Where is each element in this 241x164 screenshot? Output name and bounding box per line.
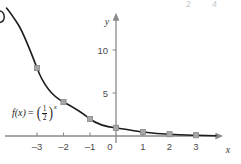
cropped-edge-mark	[0, 11, 4, 23]
exponent-x: x	[54, 104, 57, 111]
data-point-marker	[61, 99, 66, 104]
exponential-decay-figure: –3 –2 –1 0 1 2 3 5 10 x y f(x)=(12)x 2	[0, 0, 241, 164]
y-axis-label: y	[104, 16, 110, 27]
cropped-glyph-top: 4	[212, 0, 217, 9]
data-point-marker	[140, 129, 145, 134]
y-axis	[113, 20, 117, 143]
x-axis-label: x	[225, 144, 231, 155]
equals-sign: =	[28, 107, 34, 118]
x-tick-labels: –3 –2 –1 0 1 2 3	[32, 141, 199, 152]
fraction-one-half: 12	[42, 105, 48, 122]
data-point-marker	[87, 116, 92, 121]
data-point-marker	[167, 132, 172, 137]
x-tick-label-origin: 0	[107, 141, 112, 152]
y-tick-label: 5	[103, 88, 108, 99]
fraction-numerator: 1	[42, 105, 48, 113]
paren-open: (	[36, 107, 40, 120]
function-label: f(x)=(12)x	[12, 105, 57, 122]
x-tick-label: –3	[32, 141, 43, 152]
x-tick-label: 1	[140, 141, 145, 152]
x-tick-label: 2	[167, 141, 172, 152]
graph-canvas: –3 –2 –1 0 1 2 3 5 10 x y	[0, 0, 241, 164]
fraction-denominator: 2	[42, 113, 48, 122]
cropped-glyph-top: 2	[186, 0, 191, 9]
y-tick-labels: 5 10	[97, 45, 108, 99]
data-point-marker	[34, 65, 39, 70]
paren-close: )	[49, 107, 53, 120]
x-tick-label: –2	[58, 141, 69, 152]
data-point-marker	[193, 133, 198, 138]
function-notation: f(x)	[12, 107, 26, 118]
y-tick-label: 10	[97, 45, 108, 56]
x-tick-label: –1	[85, 141, 96, 152]
x-tick-label: 3	[193, 141, 198, 152]
data-point-marker	[113, 125, 118, 130]
